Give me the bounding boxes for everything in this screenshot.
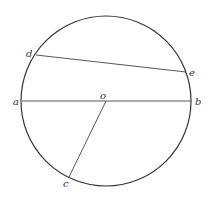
label-d: d: [26, 48, 32, 59]
label-b: b: [195, 96, 201, 107]
label-a: a: [13, 96, 19, 107]
label-c: c: [63, 178, 69, 189]
label-e: e: [189, 67, 195, 78]
label-o: o: [100, 90, 106, 101]
chord-de: [36, 55, 186, 72]
circle-diagram: a b o c d e: [0, 0, 211, 203]
radius-oc: [69, 101, 106, 177]
